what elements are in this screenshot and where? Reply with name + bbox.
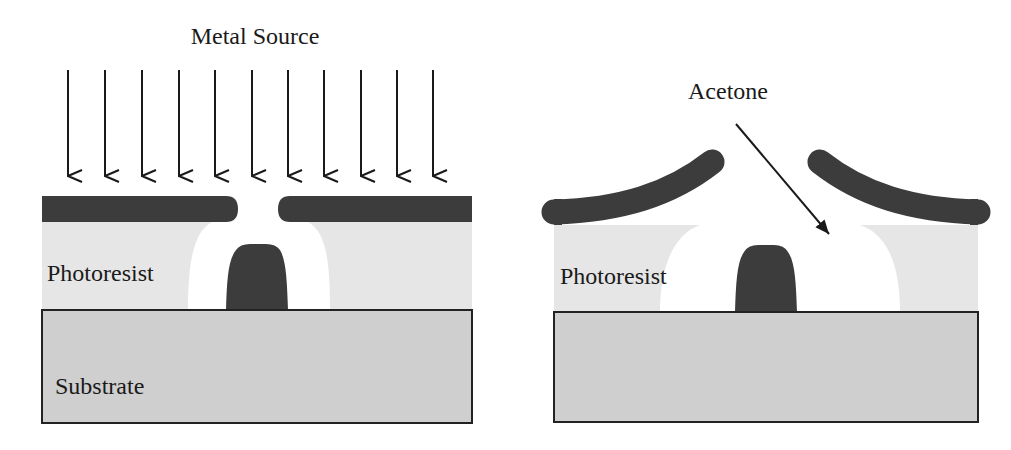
metal-film-edge-left [554,199,562,225]
photoresist-label: Photoresist [560,263,667,289]
substrate-label: Substrate [55,373,144,399]
metal-film-right [278,196,472,222]
photoresist-label: Photoresist [47,260,154,286]
metal-film-edge-right [970,199,978,225]
substrate [554,312,978,422]
left-panel-deposition: Metal Source Photoresist Substrate [42,23,472,423]
acetone-label: Acetone [688,78,768,104]
metal-feature [735,245,797,312]
metal-source-arrows [68,70,433,176]
lifted-metal-film-right [820,162,978,212]
metal-source-label: Metal Source [191,23,320,49]
lifted-metal-film-left [554,162,712,212]
right-panel-lift-off: Acetone Photoresist [554,78,978,422]
acetone-flow-arrow-icon [736,124,829,234]
lift-off-process-diagram: Metal Source Photoresist Substrate [0,0,1011,450]
metal-film-left [42,196,238,222]
substrate [42,310,472,423]
deposited-metal-feature [226,244,288,310]
photoresist-layer [860,225,978,312]
